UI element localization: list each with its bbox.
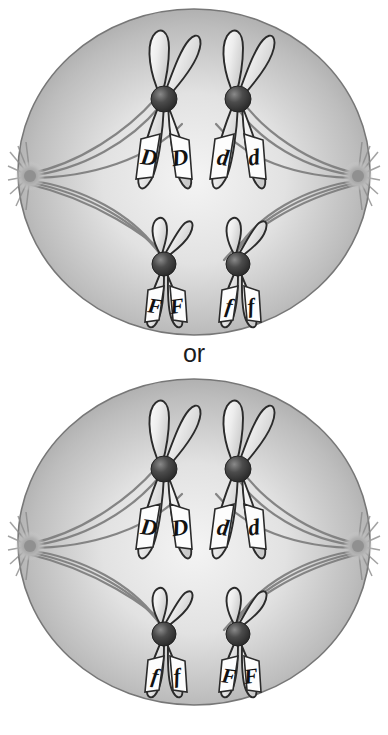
centromere (151, 86, 177, 112)
or-connector-label: or (0, 336, 388, 370)
centromere (226, 622, 250, 646)
centromere (226, 252, 250, 276)
centromere (152, 622, 176, 646)
cell-diagram-bottom: D D d d (0, 372, 388, 710)
centrosome-left-core (24, 170, 36, 182)
centromere (225, 456, 251, 482)
figure-canvas: D D d d (0, 0, 388, 735)
centromere (225, 86, 251, 112)
centrosome-left-core (24, 540, 36, 552)
centrosome-right-core (352, 170, 364, 182)
centromere (152, 252, 176, 276)
centrosome-right-core (352, 540, 364, 552)
centromere (151, 456, 177, 482)
cell-diagram-top: D D d d (0, 2, 388, 340)
